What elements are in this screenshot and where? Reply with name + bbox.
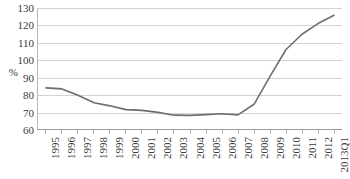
x-axis-tick-mark (318, 130, 319, 134)
x-axis-tick-mark (173, 130, 174, 134)
x-axis-tick-label: 2013Q1 (339, 137, 350, 172)
x-axis-tick-mark (286, 130, 287, 134)
x-axis-tick-label: 2002 (162, 137, 173, 159)
y-axis-tick-label: 110 (12, 38, 34, 48)
x-axis-tick-label: 2011 (307, 137, 318, 159)
y-axis-tick-label: 100 (12, 55, 34, 65)
x-axis-tick-label: 2003 (178, 137, 189, 159)
x-axis-tick-label: 1998 (98, 137, 109, 159)
x-axis-tick-mark (270, 130, 271, 134)
x-axis-tick-label: 2004 (195, 137, 206, 159)
x-axis-tick-label: 2007 (243, 137, 254, 159)
y-axis-tick-label: 60 (12, 125, 34, 135)
x-axis-tick-mark (109, 130, 110, 134)
x-axis-tick-label: 2005 (211, 137, 222, 159)
plot-area (37, 8, 342, 130)
x-axis-tick-mark (238, 130, 239, 134)
x-axis-tick-label: 2009 (275, 137, 286, 159)
y-axis-tick-label: 70 (12, 108, 34, 118)
x-axis-tick-label: 2000 (130, 137, 141, 159)
x-axis-tick-label: 1995 (50, 137, 61, 159)
x-axis-tick-mark (77, 130, 78, 134)
x-axis-tick-label: 1997 (82, 137, 93, 159)
y-axis-tick-label: 130 (12, 3, 34, 13)
x-axis-tick-mark (222, 130, 223, 134)
x-axis-tick-label: 1996 (66, 137, 77, 159)
x-axis-tick-label: 2008 (259, 137, 270, 159)
x-axis-tick-label: 1999 (114, 137, 125, 159)
x-axis-tick-mark (93, 130, 94, 134)
x-axis-tick-mark (157, 130, 158, 134)
x-axis-tick-mark (254, 130, 255, 134)
x-axis-tick-label: 2010 (291, 137, 302, 159)
data-series-line (38, 8, 342, 129)
x-axis-tick-label: 2001 (146, 137, 157, 159)
x-axis-tick-mark (61, 130, 62, 134)
x-axis-tick-mark (334, 130, 335, 134)
x-axis-tick-mark (302, 130, 303, 134)
x-axis-tick-label: 2012 (323, 137, 334, 159)
x-axis-tick-mark (206, 130, 207, 134)
x-axis-tick-label: 2006 (227, 137, 238, 159)
y-axis-tick-label: 90 (12, 73, 34, 83)
x-axis-tick-mark (125, 130, 126, 134)
y-axis-tick-label: 120 (12, 20, 34, 30)
x-axis-tick-mark (141, 130, 142, 134)
x-axis-tick-mark (45, 130, 46, 134)
x-axis-tick-mark (190, 130, 191, 134)
y-axis-tick-label: 80 (12, 90, 34, 100)
